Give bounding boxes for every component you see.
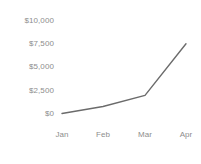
line-chart: $10,000 $7,500 $5,000 $2,500 $0 Jan Feb …: [0, 0, 201, 164]
x-tick-label: Apr: [166, 130, 201, 139]
x-tick-label: Jan: [42, 130, 82, 139]
x-axis-labels: Jan Feb Mar Apr: [0, 0, 201, 164]
x-tick-label: Mar: [125, 130, 165, 139]
x-tick-label: Feb: [83, 130, 123, 139]
